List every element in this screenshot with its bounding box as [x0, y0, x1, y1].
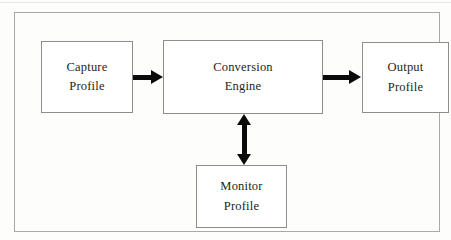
node-conversion-engine: Conversion Engine	[163, 40, 323, 114]
arrow-shaft	[323, 75, 350, 80]
arrow-shaft-vertical	[242, 124, 247, 155]
node-monitor-profile-line1: Monitor	[220, 177, 262, 196]
node-output-profile-line1: Output	[388, 58, 424, 77]
diagram-frame: Capture Profile Conversion Engine Output…	[14, 12, 440, 232]
arrow-head-right	[151, 70, 163, 84]
color-management-flow-diagram: Capture Profile Conversion Engine Output…	[0, 0, 451, 240]
node-conversion-engine-line2: Engine	[225, 77, 262, 96]
node-output-profile-line2: Profile	[388, 78, 423, 97]
node-capture-profile-line1: Capture	[67, 58, 108, 77]
node-capture-profile: Capture Profile	[41, 41, 133, 113]
scan-artifact-line	[0, 2, 451, 3]
arrow-head-right	[349, 70, 361, 84]
arrow-shaft	[133, 75, 152, 80]
arrow-right-icon-conversion-to-output	[323, 70, 362, 84]
arrow-head-down	[237, 154, 251, 165]
node-monitor-profile: Monitor Profile	[196, 165, 287, 228]
node-output-profile: Output Profile	[362, 42, 449, 113]
node-monitor-profile-line2: Profile	[224, 197, 259, 216]
arrow-right-icon-capture-to-conversion	[133, 70, 163, 84]
arrow-updown-icon-conversion-monitor	[237, 114, 251, 165]
node-conversion-engine-line1: Conversion	[213, 58, 273, 77]
node-capture-profile-line2: Profile	[69, 77, 104, 96]
